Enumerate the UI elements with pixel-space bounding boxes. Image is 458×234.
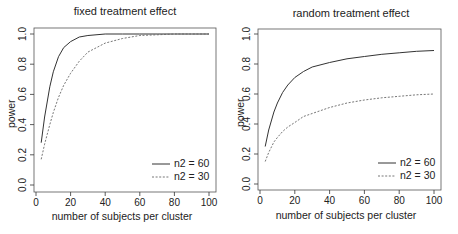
left-series-n2-30-line [41, 34, 209, 159]
x-tick-label: 100 [426, 195, 443, 206]
right-plot-panel: random treatment effect number of subjec… [229, 0, 458, 234]
x-tick-label: 20 [289, 195, 300, 206]
right-series-n2-60-line [265, 51, 434, 147]
y-tick-label: 0.6 [241, 87, 252, 101]
x-tick-label: 0 [33, 197, 39, 208]
x-tick-label: 0 [257, 195, 263, 206]
y-tick-label: 0.8 [241, 57, 252, 71]
y-tick-label: 0.8 [17, 57, 28, 71]
y-tick-label: 0.2 [241, 147, 252, 161]
left-legend-label-n30: n2 = 30 [174, 170, 209, 182]
x-tick-label: 20 [65, 197, 76, 208]
left-plot-panel: fixed treatment effect number of subject… [0, 0, 229, 234]
left-plot-title: fixed treatment effect [74, 5, 177, 17]
right-x-axis-label: number of subjects per cluster [276, 209, 417, 221]
left-legend-label-n60: n2 = 60 [174, 157, 209, 169]
x-tick-label: 60 [359, 195, 370, 206]
y-tick-label: 0.6 [17, 87, 28, 101]
x-tick-label: 40 [324, 195, 335, 206]
right-legend-label-n30: n2 = 30 [400, 169, 435, 181]
left-x-axis-label: number of subjects per cluster [52, 210, 193, 222]
right-legend-label-n60: n2 = 60 [400, 156, 435, 168]
y-tick-label: 0.4 [17, 118, 28, 132]
left-series-n2-60-line [41, 34, 209, 143]
x-tick-label: 80 [169, 197, 180, 208]
y-tick-label: 1.0 [17, 27, 28, 41]
right-series-n2-30-line [265, 94, 434, 162]
left-y-axis-label: power [5, 99, 17, 128]
x-tick-label: 100 [201, 197, 218, 208]
y-tick-label: 1.0 [241, 27, 252, 41]
right-plot-title: random treatment effect [293, 7, 410, 19]
x-tick-label: 80 [394, 195, 405, 206]
y-tick-label: 0.2 [17, 148, 28, 162]
y-tick-label: 0.4 [241, 117, 252, 131]
y-tick-label: 0.0 [17, 178, 28, 192]
x-tick-label: 60 [134, 197, 145, 208]
y-tick-label: 0.0 [241, 177, 252, 191]
x-tick-label: 40 [100, 197, 111, 208]
right-plot-area [229, 0, 458, 234]
